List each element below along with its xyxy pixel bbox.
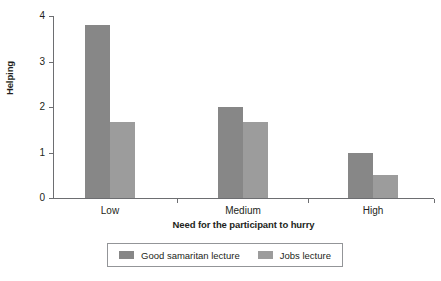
bar xyxy=(85,25,110,198)
legend-item-label: Good samaritan lecture xyxy=(141,250,240,261)
bar xyxy=(243,122,268,198)
legend-swatch-icon xyxy=(258,251,273,259)
legend-item-label: Jobs lecture xyxy=(280,250,331,261)
bar xyxy=(348,153,373,199)
legend-item-good-samaritan-lecture: Good samaritan lecture xyxy=(119,250,240,261)
plot-area xyxy=(0,0,441,199)
chart-legend: Good samaritan lecture Jobs lecture xyxy=(107,243,343,267)
legend-item-jobs-lecture: Jobs lecture xyxy=(258,250,331,261)
x-axis-tick xyxy=(308,199,309,203)
bar xyxy=(218,107,243,198)
bar xyxy=(110,122,135,198)
legend-swatch-icon xyxy=(119,251,134,259)
x-axis-tick-label: Low xyxy=(70,205,150,217)
x-axis-tick xyxy=(434,199,435,203)
x-axis-title: Need for the participant to hurry xyxy=(53,219,434,230)
bar-chart: Helping 01234 LowMediumHigh Need for the… xyxy=(0,0,441,281)
x-axis-tick-label: High xyxy=(333,205,413,217)
bar xyxy=(373,175,398,198)
x-axis-tick-label: Medium xyxy=(203,205,283,217)
x-axis-tick xyxy=(177,199,178,203)
x-axis-line xyxy=(53,198,434,199)
